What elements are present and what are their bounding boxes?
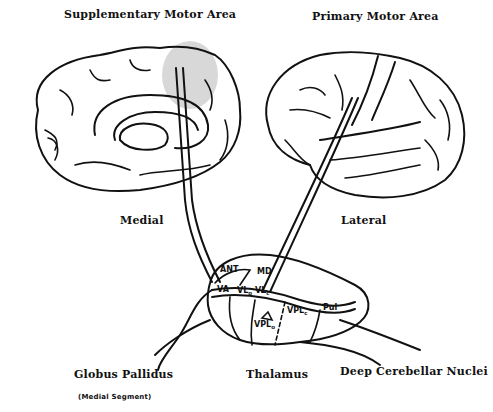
nucleus-vlo: VLo xyxy=(237,286,252,296)
label-medial: Medial xyxy=(120,214,164,227)
label-deep-cerebellar-nuclei: Deep Cerebellar Nuclei xyxy=(340,365,488,378)
nucleus-md: MD xyxy=(257,267,272,276)
nucleus-ant: ANT xyxy=(220,265,239,274)
sma-highlight xyxy=(162,41,218,109)
nucleus-pul: Pul xyxy=(323,303,338,312)
label-globus-pallidus: Globus Pallidus xyxy=(74,368,173,381)
label-supplementary-motor-area: Supplementary Motor Area xyxy=(64,8,236,21)
nucleus-vplo: VPLo xyxy=(254,320,275,330)
label-primary-motor-area: Primary Motor Area xyxy=(312,10,439,23)
label-thalamus: Thalamus xyxy=(246,368,308,381)
nucleus-va: VA xyxy=(217,285,230,294)
diagram-drawing: ANT MD VA VLo VLc VPLc VPLo Pul xyxy=(0,0,493,412)
label-medial-segment: (Medial Segment) xyxy=(78,393,151,401)
label-lateral: Lateral xyxy=(341,214,386,227)
nucleus-vlc: VLc xyxy=(255,286,270,296)
lateral-brain xyxy=(266,52,464,197)
motor-pathways-diagram: ANT MD VA VLo VLc VPLc VPLo Pul Suppleme… xyxy=(0,0,493,412)
